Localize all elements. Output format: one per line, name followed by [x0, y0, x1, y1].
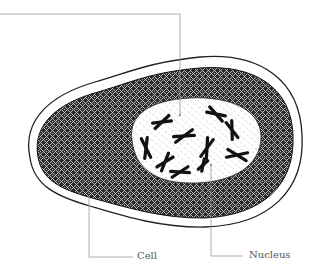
leader-dot-nucleus [210, 164, 212, 166]
label-cell: Cell [137, 250, 157, 262]
nucleus-hatching [132, 98, 261, 183]
cell-diagram [0, 0, 325, 278]
leader-dot-top [179, 114, 181, 116]
label-nucleus: Nucleus [249, 249, 290, 261]
